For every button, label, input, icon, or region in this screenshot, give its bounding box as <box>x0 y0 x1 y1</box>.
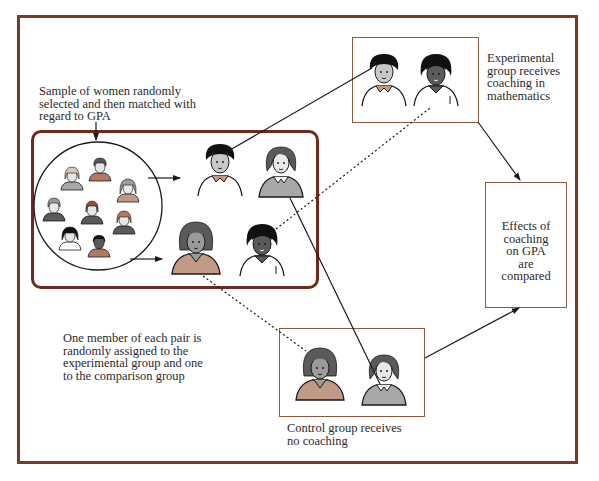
control-to-results-arrow <box>425 308 519 358</box>
experimental-person-2 <box>414 54 458 106</box>
diagram-graphics <box>0 0 599 481</box>
person-bob-tan <box>172 222 220 274</box>
pair-2 <box>172 222 284 276</box>
person-afro-light <box>198 144 242 196</box>
person-afro-dark <box>240 224 284 276</box>
pair-1 <box>198 144 303 197</box>
control-person-1 <box>296 348 344 400</box>
pair1-to-experimental-line <box>230 68 372 150</box>
control-person-2 <box>362 355 406 405</box>
experimental-to-results-arrow <box>478 122 520 180</box>
pair2-to-control-dashed <box>203 276 306 351</box>
experimental-person-1 <box>362 54 406 106</box>
pair2-to-experimental-dashed <box>276 108 430 229</box>
person-wavy-gray <box>259 147 303 197</box>
